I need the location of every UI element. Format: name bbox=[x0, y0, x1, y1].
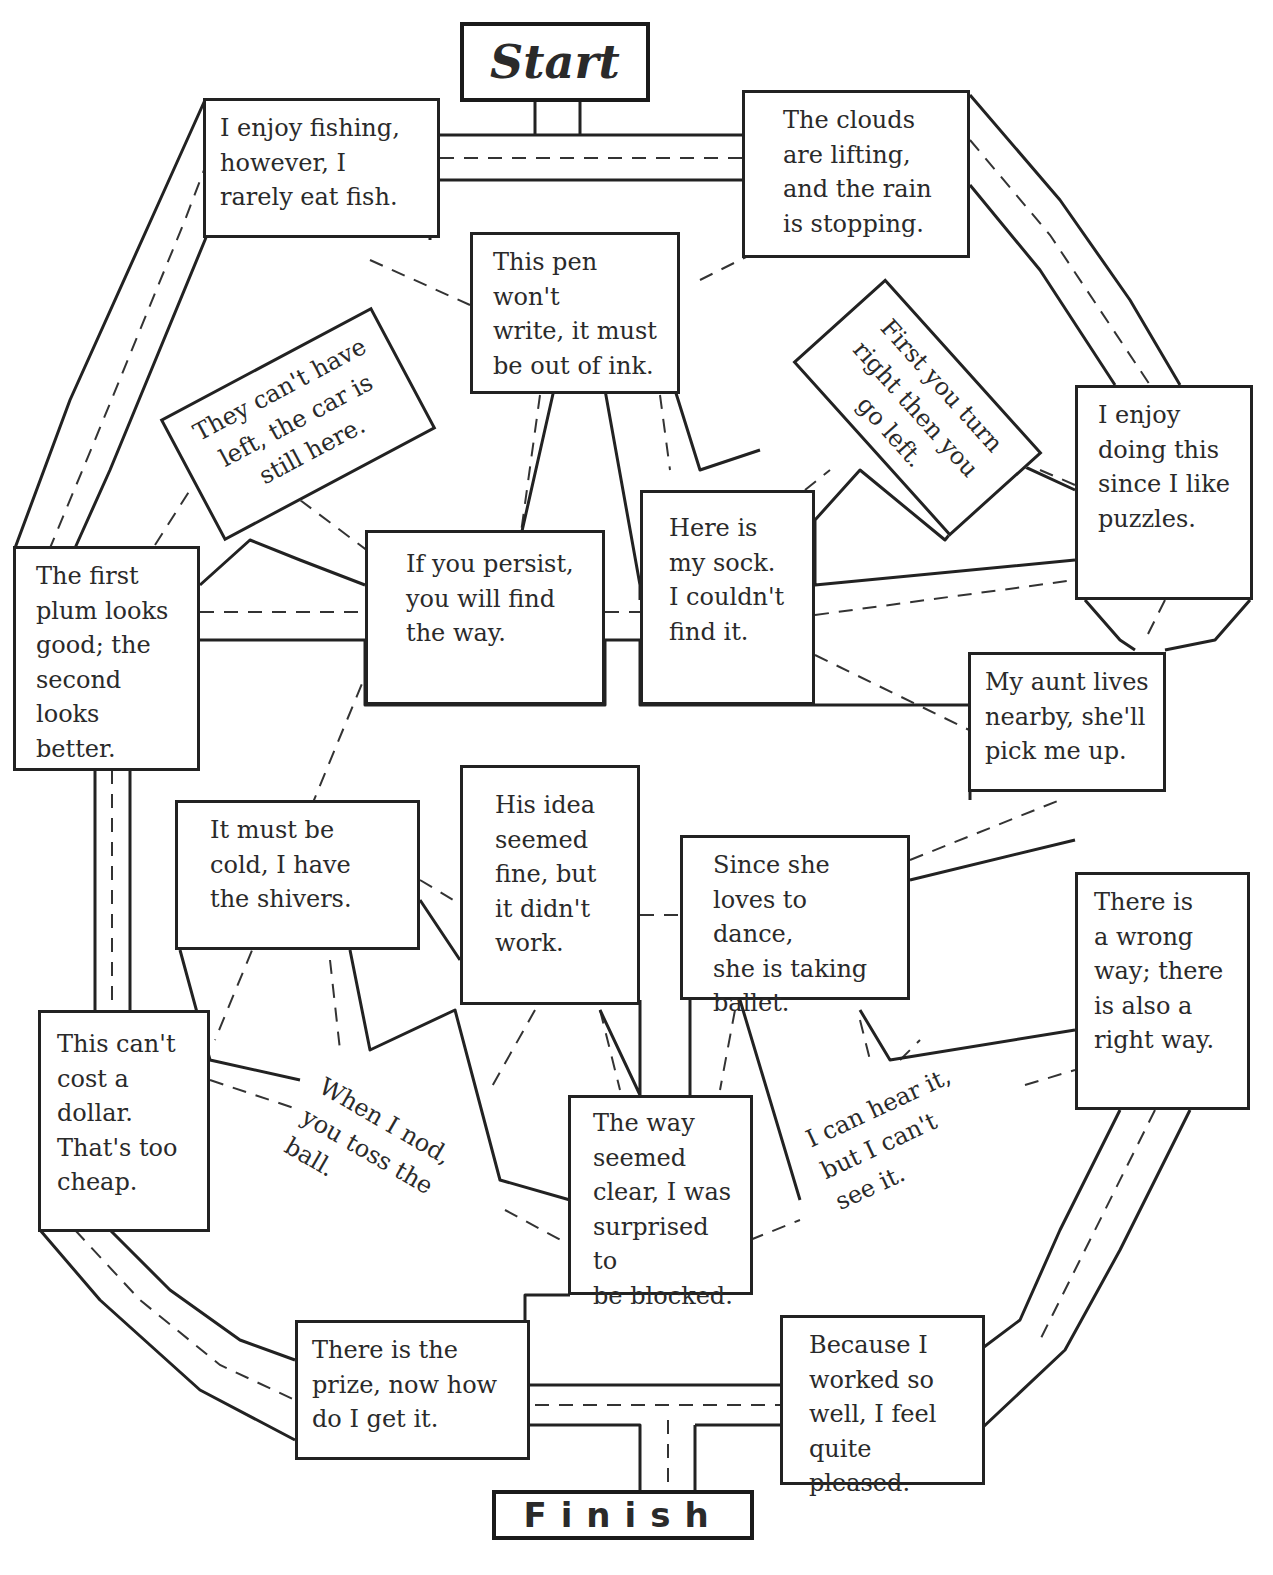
maze-box-aunt: My aunt lives nearby, she'll pick me up. bbox=[968, 652, 1166, 792]
maze-box-sock: Here is my sock. I couldn't find it. bbox=[640, 490, 815, 705]
maze-box-puzzles: I enjoy doing this since I like puzzles. bbox=[1075, 385, 1253, 600]
maze-box-clouds: The clouds are lifting, and the rain is … bbox=[742, 90, 970, 258]
maze-box-dance: Since she loves to dance, she is taking … bbox=[680, 835, 910, 1000]
maze-box-fishing: I enjoy fishing, however, I rarely eat f… bbox=[203, 98, 440, 238]
road-outline bbox=[1085, 600, 1250, 650]
road-outline bbox=[970, 95, 1180, 385]
maze-box-idea: His idea seemed fine, but it didn't work… bbox=[460, 765, 640, 1005]
start-text: Start bbox=[490, 35, 620, 89]
finish-text: Finish bbox=[523, 1495, 722, 1535]
maze-box-pleased: Because I worked so well, I feel quite p… bbox=[780, 1315, 985, 1485]
road-outline bbox=[430, 135, 745, 240]
maze-box-prize: There is the prize, now how do I get it. bbox=[295, 1320, 530, 1460]
road-outline bbox=[530, 1425, 780, 1490]
start-label: Start bbox=[460, 22, 650, 102]
road-centerline bbox=[1145, 600, 1165, 640]
maze-box-blocked: The way seemed clear, I was surprised to… bbox=[568, 1095, 753, 1295]
maze-box-wrongway: There is a wrong way; there is also a ri… bbox=[1075, 872, 1250, 1110]
road-centerline bbox=[970, 140, 1150, 385]
finish-label: Finish bbox=[492, 1490, 754, 1540]
maze-box-persist: If you persist, you will find the way. bbox=[365, 530, 605, 705]
road-outline bbox=[980, 1110, 1190, 1430]
road-outline bbox=[40, 1230, 295, 1440]
road-outline bbox=[535, 100, 580, 135]
road-centerline bbox=[1040, 1110, 1155, 1340]
maze-box-pen: This pen won't write, it must be out of … bbox=[470, 232, 680, 394]
maze-box-cold: It must be cold, I have the shivers. bbox=[175, 800, 420, 950]
maze-box-plum: The first plum looks good; the second lo… bbox=[13, 546, 200, 771]
maze-box-dollar: This can't cost a dollar. That's too che… bbox=[38, 1010, 210, 1232]
